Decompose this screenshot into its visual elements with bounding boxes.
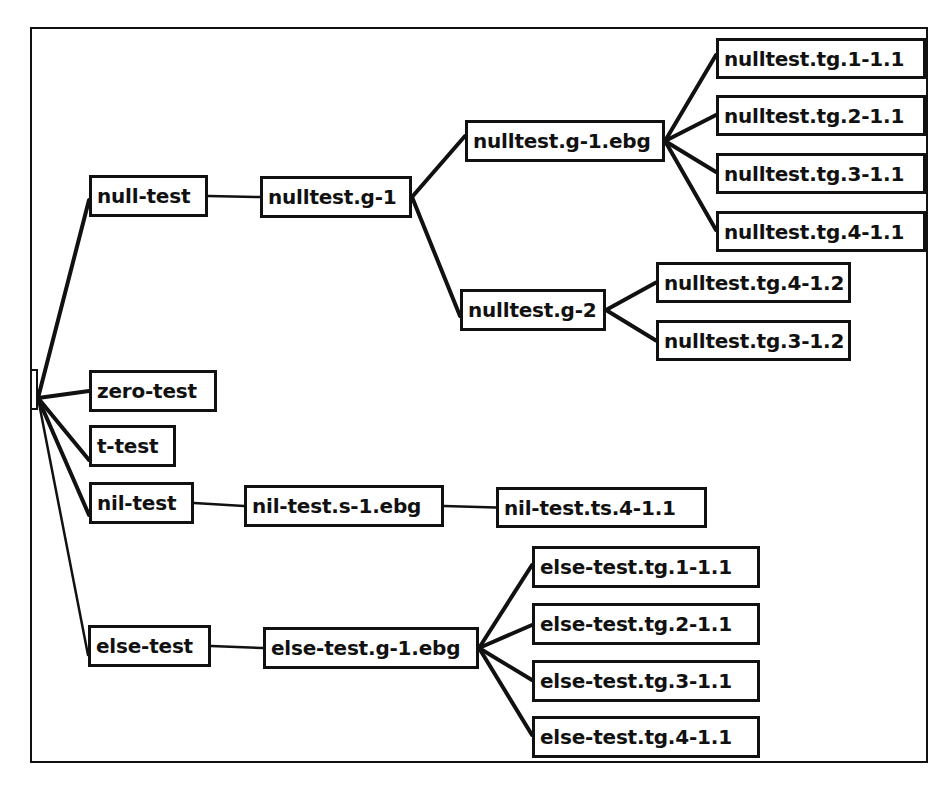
tree-node-nulltest-tg-2-1-1[interactable]: nulltest.tg.2-1.1 bbox=[716, 95, 926, 136]
root-node[interactable] bbox=[30, 369, 38, 410]
tree-node-t-test[interactable]: t-test bbox=[89, 425, 176, 467]
edge-nulltest-g-2-to-nulltest-tg-4-1-2 bbox=[606, 283, 656, 311]
tree-node-nulltest-tg-4-1-2[interactable]: nulltest.tg.4-1.2 bbox=[656, 262, 851, 303]
tree-node-else-test[interactable]: else-test bbox=[88, 625, 211, 667]
tree-node-label: nil-test bbox=[97, 493, 176, 513]
tree-node-label: nulltest.tg.3-1.1 bbox=[724, 164, 904, 184]
tree-node-label: else-test.tg.3-1.1 bbox=[540, 671, 732, 691]
edge-nil-test-to-nil-test-s-1-ebg bbox=[194, 503, 244, 506]
tree-node-nulltest-tg-1-1-1[interactable]: nulltest.tg.1-1.1 bbox=[716, 38, 926, 79]
tree-node-label: nulltest.tg.2-1.1 bbox=[724, 106, 904, 126]
edge-else-test-g-1-ebg-to-else-test-tg-4-1-1 bbox=[479, 648, 532, 735]
tree-node-nulltest-tg-3-1-1[interactable]: nulltest.tg.3-1.1 bbox=[716, 153, 926, 194]
tree-node-else-test-tg-3-1-1[interactable]: else-test.tg.3-1.1 bbox=[532, 660, 760, 702]
edge-root-to-else-test bbox=[38, 398, 88, 655]
tree-node-label: nil-test.ts.4-1.1 bbox=[504, 498, 676, 518]
tree-node-label: nulltest.g-1.ebg bbox=[473, 131, 651, 151]
tree-node-else-test-tg-2-1-1[interactable]: else-test.tg.2-1.1 bbox=[532, 603, 760, 645]
tree-node-label: nulltest.tg.1-1.1 bbox=[724, 49, 904, 69]
tree-node-label: t-test bbox=[97, 436, 158, 456]
tree-node-else-test-tg-4-1-1[interactable]: else-test.tg.4-1.1 bbox=[532, 716, 760, 758]
tree-node-nulltest-g-1[interactable]: nulltest.g-1 bbox=[260, 176, 412, 218]
tree-node-label: else-test.tg.1-1.1 bbox=[540, 557, 732, 577]
edge-root-to-nil-test bbox=[38, 398, 89, 515]
tree-node-label: zero-test bbox=[97, 381, 197, 401]
tree-node-label: else-test bbox=[96, 636, 193, 656]
tree-node-zero-test[interactable]: zero-test bbox=[89, 370, 217, 412]
tree-node-else-test-tg-1-1-1[interactable]: else-test.tg.1-1.1 bbox=[532, 546, 760, 588]
edge-nulltest-g-1-to-nulltest-g-1-ebg bbox=[412, 136, 465, 197]
tree-node-null-test[interactable]: null-test bbox=[89, 175, 208, 217]
tree-node-label: null-test bbox=[97, 186, 190, 206]
tree-node-nil-test[interactable]: nil-test bbox=[89, 482, 194, 524]
tree-node-else-test-g-1-ebg[interactable]: else-test.g-1.ebg bbox=[263, 627, 479, 669]
tree-node-nulltest-tg-4-1-1[interactable]: nulltest.tg.4-1.1 bbox=[716, 211, 926, 252]
tree-node-nil-test-ts-4-1-1[interactable]: nil-test.ts.4-1.1 bbox=[496, 487, 707, 528]
tree-node-label: nulltest.tg.4-1.2 bbox=[664, 273, 844, 293]
edge-else-test-to-else-test-g-1-ebg bbox=[211, 646, 263, 648]
tree-node-label: nulltest.tg.3-1.2 bbox=[664, 331, 844, 351]
tree-node-nulltest-g-2[interactable]: nulltest.g-2 bbox=[460, 289, 606, 331]
tree-node-label: nil-test.s-1.ebg bbox=[252, 496, 421, 516]
edge-nulltest-g-2-to-nulltest-tg-3-1-2 bbox=[606, 310, 656, 341]
tree-node-nil-test-s-1-ebg[interactable]: nil-test.s-1.ebg bbox=[244, 485, 444, 527]
tree-node-label: else-test.tg.4-1.1 bbox=[540, 727, 732, 747]
edge-nil-test-s-1-ebg-to-nil-test-ts-4-1-1 bbox=[444, 506, 496, 508]
tree-node-label: else-test.g-1.ebg bbox=[271, 638, 460, 658]
tree-node-nulltest-g-1-ebg[interactable]: nulltest.g-1.ebg bbox=[465, 120, 665, 162]
tree-node-label: else-test.tg.2-1.1 bbox=[540, 614, 732, 634]
edge-nulltest-g-1-to-nulltest-g-2 bbox=[412, 197, 460, 316]
edge-root-to-zero-test bbox=[38, 391, 89, 398]
edge-root-to-null-test bbox=[38, 200, 89, 398]
tree-node-label: nulltest.tg.4-1.1 bbox=[724, 222, 904, 242]
edge-root-to-t-test bbox=[38, 398, 89, 460]
tree-node-label: nulltest.g-1 bbox=[268, 187, 397, 207]
tree-node-nulltest-tg-3-1-2[interactable]: nulltest.tg.3-1.2 bbox=[656, 320, 851, 361]
edge-null-test-to-nulltest-g-1 bbox=[208, 196, 260, 197]
tree-node-label: nulltest.g-2 bbox=[468, 300, 597, 320]
